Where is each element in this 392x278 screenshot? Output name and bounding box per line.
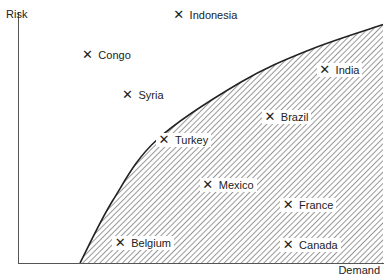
x-marker-icon: ✕ — [113, 236, 127, 250]
point-label: Congo — [98, 49, 130, 61]
x-marker-icon: ✕ — [281, 198, 295, 212]
data-point: ✕Congo — [79, 48, 133, 62]
data-point: ✕Syria — [120, 88, 167, 102]
x-axis-label: Demand — [338, 264, 380, 276]
point-label: Turkey — [175, 134, 208, 146]
x-marker-icon: ✕ — [318, 63, 332, 77]
x-marker-icon: ✕ — [172, 8, 186, 22]
data-point: ✕Turkey — [156, 133, 211, 147]
x-marker-icon: ✕ — [201, 178, 215, 192]
data-point: ✕Belgium — [112, 236, 174, 250]
x-marker-icon: ✕ — [121, 88, 135, 102]
y-axis-label: Risk — [6, 8, 27, 20]
data-point: ✕Mexico — [200, 178, 257, 192]
x-marker-icon: ✕ — [80, 48, 94, 62]
point-label: Canada — [299, 239, 338, 251]
point-label: Brazil — [281, 111, 309, 123]
point-label: Syria — [139, 89, 164, 101]
data-point: ✕France — [280, 198, 336, 212]
data-point: ✕Indonesia — [171, 8, 241, 22]
x-marker-icon: ✕ — [263, 110, 277, 124]
point-label: Belgium — [131, 237, 171, 249]
point-label: Mexico — [219, 179, 254, 191]
data-point: ✕India — [317, 63, 363, 77]
data-point: ✕Canada — [280, 238, 341, 252]
point-label: Indonesia — [190, 9, 238, 21]
point-label: France — [299, 199, 333, 211]
risk-demand-chart: Risk Demand ✕Indonesia✕Congo✕Syria✕Turke… — [0, 0, 392, 278]
x-marker-icon: ✕ — [157, 133, 171, 147]
point-label: India — [336, 64, 360, 76]
x-marker-icon: ✕ — [281, 238, 295, 252]
data-point: ✕Brazil — [262, 110, 312, 124]
